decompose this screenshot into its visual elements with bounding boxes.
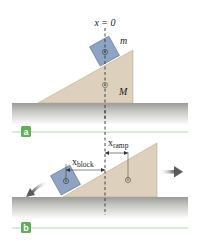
svg-text:b: b — [23, 223, 29, 233]
ramp-displacement-label: xramp — [108, 137, 129, 150]
panel-a-badge: a — [21, 126, 31, 137]
arrow-right-icon — [160, 166, 183, 178]
ground-surface — [12, 103, 188, 125]
origin-label: x = 0 — [93, 17, 115, 28]
block-mass-label: m — [120, 35, 127, 46]
panel-a: x = 0 m M a — [12, 17, 188, 137]
arrow-left-icon — [26, 183, 47, 197]
panel-b: xblock xramp b — [12, 110, 188, 233]
panel-b-badge: b — [21, 222, 31, 233]
ramp-displacement-dimension — [105, 151, 128, 155]
ground-surface — [12, 197, 188, 219]
block-displacement-label: xblock — [72, 156, 94, 169]
ramp-mass-label: M — [118, 86, 128, 97]
diagram-canvas: x = 0 m M a — [0, 0, 200, 241]
